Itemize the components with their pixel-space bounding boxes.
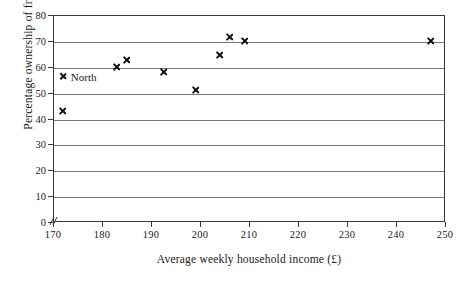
y-tick-70 <box>48 41 53 42</box>
x-tick-label-220: 220 <box>290 229 307 240</box>
legend-label: North <box>71 71 97 83</box>
x-tick-200 <box>200 222 201 227</box>
plot-area <box>53 15 445 222</box>
x-tick-label-180: 180 <box>94 229 111 240</box>
y-tick-label-30: 30 <box>26 139 46 150</box>
y-tick-label-10: 10 <box>26 191 46 202</box>
y-tick-0 <box>48 222 53 223</box>
y-tick-40 <box>48 119 53 120</box>
x-tick-label-190: 190 <box>143 229 160 240</box>
y-tick-60 <box>48 67 53 68</box>
scatter-chart: 1701801902002102202302402500102030405060… <box>0 0 468 283</box>
y-tick-50 <box>48 93 53 94</box>
y-axis-title: Percentage ownership of freezers <box>22 0 34 135</box>
x-tick-180 <box>102 222 103 227</box>
x-tick-210 <box>249 222 250 227</box>
legend-marker-x-icon <box>59 73 67 81</box>
x-tick-label-210: 210 <box>241 229 258 240</box>
x-tick-240 <box>396 222 397 227</box>
x-tick-label-230: 230 <box>339 229 356 240</box>
gridline-y-40 <box>54 120 444 121</box>
gridline-y-30 <box>54 145 444 146</box>
y-tick-label-20: 20 <box>26 165 46 176</box>
gridline-y-50 <box>54 94 444 95</box>
x-tick-label-240: 240 <box>388 229 405 240</box>
gridline-y-70 <box>54 42 444 43</box>
x-tick-220 <box>298 222 299 227</box>
x-tick-label-200: 200 <box>192 229 209 240</box>
y-tick-label-0: 0 <box>26 217 46 228</box>
x-tick-230 <box>347 222 348 227</box>
legend-entry-north: North <box>59 69 97 82</box>
x-tick-250 <box>445 222 446 227</box>
y-tick-30 <box>48 144 53 145</box>
y-tick-80 <box>48 15 53 16</box>
y-tick-10 <box>48 196 53 197</box>
x-tick-label-170: 170 <box>45 229 62 240</box>
y-tick-20 <box>48 170 53 171</box>
x-tick-190 <box>151 222 152 227</box>
x-tick-170 <box>53 222 54 227</box>
x-axis-title: Average weekly household income (£) <box>53 253 445 265</box>
gridline-y-10 <box>54 197 444 198</box>
gridline-y-20 <box>54 171 444 172</box>
x-tick-label-250: 250 <box>437 229 454 240</box>
gridline-y-60 <box>54 68 444 69</box>
